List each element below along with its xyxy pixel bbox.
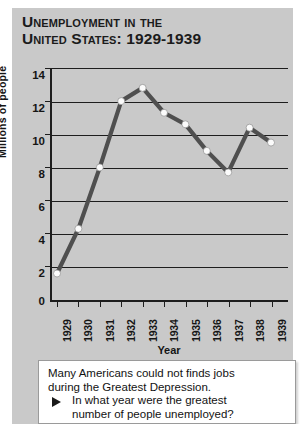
data-point-1929 (54, 270, 61, 277)
data-point-1933 (139, 84, 146, 91)
x-axis-line (50, 300, 288, 302)
y-axis-title: Millions of people (0, 66, 8, 158)
caption-line-2: during the Greatest Depression. (48, 381, 211, 395)
data-point-1939 (268, 139, 275, 146)
x-tick-label-1939: 1939 (276, 319, 288, 342)
x-tick-mark-1935 (186, 300, 187, 307)
y-tick-label-2: 2 (15, 268, 45, 279)
x-tick-mark-1934 (164, 300, 165, 307)
y-tick-label-10: 10 (15, 136, 45, 147)
x-tick-label-1933: 1933 (147, 319, 159, 342)
data-point-1931 (96, 164, 103, 171)
x-tick-mark-1938 (250, 300, 251, 307)
caption-line-1: Many Americans could not finds jobs (48, 367, 235, 381)
series-markers (54, 84, 275, 277)
x-axis-title: Year (50, 344, 288, 356)
x-tick-label-1930: 1930 (82, 319, 94, 342)
x-tick-label-1934: 1934 (168, 319, 180, 342)
x-tick-label-1936: 1936 (211, 319, 223, 342)
data-point-1934 (161, 109, 168, 116)
x-tick-mark-1931 (100, 300, 101, 307)
y-tick-label-12: 12 (15, 103, 45, 114)
data-point-1936 (203, 147, 210, 154)
figure-panel: Unemployment in the United States: 1929-… (12, 8, 293, 424)
x-tick-mark-1929 (57, 300, 58, 307)
caption-box: Many Americans could not finds jobs duri… (38, 360, 296, 424)
y-tick-label-14: 14 (15, 70, 45, 81)
y-tick-label-4: 4 (15, 235, 45, 246)
x-tick-label-1932: 1932 (125, 319, 137, 342)
data-point-1937 (225, 169, 232, 176)
data-point-1935 (182, 121, 189, 128)
question-line-1: In what year were the greatest (72, 394, 227, 408)
data-point-1938 (246, 124, 253, 131)
data-point-1932 (118, 98, 125, 105)
x-tick-mark-1939 (272, 300, 273, 307)
x-tick-mark-1937 (229, 300, 230, 307)
x-tick-label-1929: 1929 (61, 319, 73, 342)
x-tick-label-1937: 1937 (233, 319, 245, 342)
x-tick-mark-1936 (207, 300, 208, 307)
y-tick-label-6: 6 (15, 202, 45, 213)
triangle-right-icon (52, 397, 61, 407)
data-series-unemployment (50, 68, 288, 300)
x-tick-label-1935: 1935 (190, 319, 202, 342)
question-line-2: number of people unemployed? (72, 408, 234, 422)
x-tick-label-1938: 1938 (254, 319, 266, 342)
x-tick-mark-1933 (143, 300, 144, 307)
x-tick-mark-1932 (121, 300, 122, 307)
x-tick-mark-1930 (78, 300, 79, 307)
x-tick-label-1931: 1931 (104, 319, 116, 342)
data-point-1930 (75, 225, 82, 232)
y-axis-tick-labels: 14 12 10 8 6 4 2 0 (12, 8, 45, 308)
y-tick-label-0: 0 (15, 296, 45, 307)
y-tick-label-8: 8 (15, 169, 45, 180)
